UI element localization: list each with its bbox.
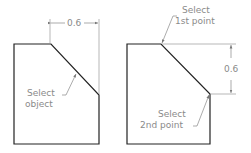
right-bottom-label-line2: 2nd point bbox=[140, 120, 183, 130]
right-dimension-value: 0.6 bbox=[224, 64, 239, 74]
right-top-label-line2: 1st point bbox=[175, 16, 215, 26]
left-label-line2: object bbox=[25, 99, 53, 109]
left-label-line1: Select bbox=[27, 88, 55, 98]
right-top-label-line1: Select bbox=[182, 5, 210, 15]
left-dimension-value: 0.6 bbox=[67, 18, 82, 28]
labels-layer: 0.6 Select object Select 1st point 0.6 S… bbox=[0, 0, 251, 153]
right-bottom-label-line1: Select bbox=[158, 109, 186, 119]
